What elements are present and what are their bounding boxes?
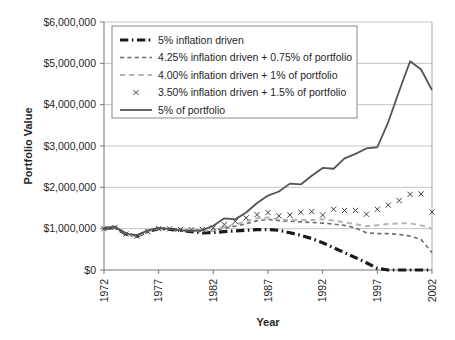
legend-item-3: 3.50% inflation driven + 1.5% of portfol… [133, 86, 346, 98]
legend-label: 4.25% inflation driven + 0.75% of portfo… [158, 51, 352, 63]
y-axis-title-label: Portfolio Value [22, 107, 34, 184]
y-tick-label: $4,000,000 [43, 98, 96, 110]
legend-label: 3.50% inflation driven + 1.5% of portfol… [158, 86, 346, 98]
portfolio-value-chart: $0$1,000,000$2,000,000$3,000,000$4,000,0… [0, 0, 455, 340]
x-axis-title-label: Year [256, 316, 280, 328]
y-tick-label: $1,000,000 [43, 222, 96, 234]
chart-legend: 5% inflation driven4.25% inflation drive… [112, 26, 357, 118]
legend-label: 4.00% inflation driven + 1% of portfolio [158, 69, 338, 81]
y-axis-title: Portfolio Value [22, 107, 34, 184]
legend-label: 5% inflation driven [158, 34, 244, 46]
x-tick-label: 1987 [262, 279, 274, 303]
y-tick-label: $3,000,000 [43, 140, 96, 152]
y-tick-label: $5,000,000 [43, 57, 96, 69]
y-tick-label: $6,000,000 [43, 16, 96, 28]
x-tick-label: 2002 [426, 279, 438, 303]
x-tick-label: 1997 [371, 279, 383, 303]
x-tick-label: 1992 [316, 279, 328, 303]
x-tick-label: 1972 [98, 279, 110, 303]
y-tick-label: $0 [84, 264, 96, 276]
x-tick-label: 1977 [152, 279, 164, 303]
legend-label: 5% of portfolio [158, 104, 225, 116]
chart-canvas: $0$1,000,000$2,000,000$3,000,000$4,000,0… [0, 0, 455, 340]
y-axis-ticks [100, 22, 104, 270]
x-tick-label: 1982 [207, 279, 219, 303]
y-tick-label: $2,000,000 [43, 181, 96, 193]
x-axis-title: Year [256, 316, 280, 328]
x-axis-tick-labels: 1972197719821987199219972002 [98, 279, 438, 303]
y-axis-tick-labels: $0$1,000,000$2,000,000$3,000,000$4,000,0… [43, 16, 96, 276]
